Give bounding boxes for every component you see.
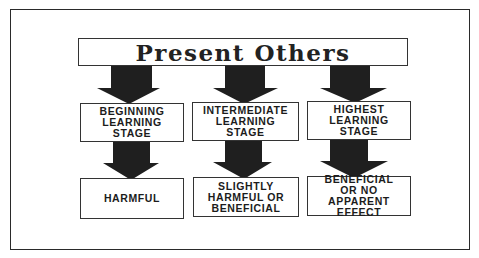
stage-box-highest: HIGHEST LEARNING STAGE [307,101,411,140]
title-banner: Present Others [78,38,408,66]
outcome-box-harmful: HARMFUL [80,178,184,219]
arrow-down-icon [103,141,160,180]
arrow-down-icon [213,140,273,179]
arrow-down-icon [97,66,161,104]
outcome-box-slightly-harmful-or-beneficial: SLIGHTLY HARMFUL OR BENEFICIAL [193,177,299,217]
stage-box-intermediate: INTERMEDIATE LEARNING STAGE [192,102,299,141]
stage-label: BEGINNING LEARNING STAGE [100,106,165,139]
stage-label: INTERMEDIATE LEARNING STAGE [203,105,288,138]
outcome-label: SLIGHTLY HARMFUL OR BENEFICIAL [208,181,284,214]
arrow-down-icon [213,66,279,104]
arrow-down-icon [320,66,388,103]
outcome-box-beneficial-or-no-effect: BENEFICIAL OR NO APPARENT EFFECT [307,176,411,216]
diagram-title: Present Others [135,41,350,64]
outcome-label: HARMFUL [104,193,160,204]
stage-box-beginning: BEGINNING LEARNING STAGE [80,103,184,142]
outcome-label: BENEFICIAL OR NO APPARENT EFFECT [308,174,410,218]
stage-label: HIGHEST LEARNING STAGE [329,104,389,137]
